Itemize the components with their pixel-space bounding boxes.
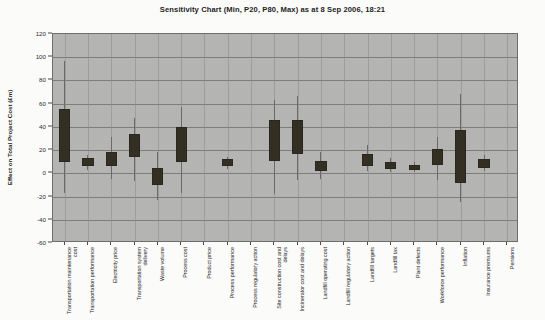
box-p20-p80 bbox=[385, 162, 396, 169]
data-point bbox=[53, 34, 76, 241]
x-tick-mark bbox=[134, 242, 135, 245]
x-tick-label: Pensions bbox=[509, 247, 515, 317]
data-point bbox=[146, 34, 169, 241]
box-p20-p80 bbox=[222, 159, 233, 166]
data-point bbox=[216, 34, 239, 241]
x-tick-mark bbox=[390, 242, 391, 245]
y-tick-label: -60 bbox=[37, 239, 46, 246]
data-point bbox=[472, 34, 495, 241]
x-tick-mark bbox=[506, 242, 507, 245]
x-tick-mark bbox=[180, 242, 181, 245]
box-p20-p80 bbox=[59, 109, 70, 161]
box-p20-p80 bbox=[176, 127, 187, 162]
data-point bbox=[379, 34, 402, 241]
x-tick-label: Landfill regulatory action bbox=[345, 247, 351, 317]
y-tick-label: 120 bbox=[36, 30, 46, 37]
x-axis: Transportation maintenance costTransport… bbox=[52, 242, 518, 320]
x-tick-label: Process performance bbox=[229, 247, 235, 317]
x-tick-label: Workforce performance bbox=[439, 247, 445, 317]
y-tick-label: 60 bbox=[39, 99, 46, 106]
data-point bbox=[170, 34, 193, 241]
box-p20-p80 bbox=[315, 161, 326, 171]
x-tick-mark bbox=[297, 242, 298, 245]
category-separator bbox=[507, 34, 508, 241]
box-p20-p80 bbox=[292, 120, 303, 154]
x-tick-label: Landfill targets bbox=[369, 247, 375, 317]
x-tick-label: Process cost bbox=[182, 247, 188, 317]
x-tick-label: Insurance premiums bbox=[485, 247, 491, 317]
data-point bbox=[449, 34, 472, 241]
x-tick-mark bbox=[483, 242, 484, 245]
data-point bbox=[100, 34, 123, 241]
y-axis: 120100806040200-20-40-60 bbox=[0, 33, 52, 242]
x-tick-label: Site construction cost and delays bbox=[276, 247, 288, 317]
x-tick-label: Electricity price bbox=[112, 247, 118, 317]
data-point bbox=[123, 34, 146, 241]
box-p20-p80 bbox=[478, 159, 489, 167]
category-separator bbox=[204, 34, 205, 241]
chart-page: Sensitivity Chart (Min, P20, P80, Max) a… bbox=[0, 0, 545, 320]
box-p20-p80 bbox=[106, 152, 117, 166]
y-tick-label: 40 bbox=[39, 122, 46, 129]
x-tick-label: Transportation performance bbox=[89, 247, 95, 317]
x-tick-mark bbox=[413, 242, 414, 245]
x-tick-label: Plant defects bbox=[415, 247, 421, 317]
x-tick-mark bbox=[203, 242, 204, 245]
x-tick-mark bbox=[250, 242, 251, 245]
category-separator bbox=[251, 34, 252, 241]
x-tick-label: Inflation bbox=[462, 247, 468, 317]
x-tick-mark bbox=[343, 242, 344, 245]
data-point bbox=[263, 34, 286, 241]
data-point bbox=[403, 34, 426, 241]
x-tick-mark bbox=[64, 242, 65, 245]
box-p20-p80 bbox=[152, 168, 163, 185]
box-p20-p80 bbox=[362, 154, 373, 167]
x-tick-label: Process regulatory action bbox=[252, 247, 258, 317]
x-tick-mark bbox=[87, 242, 88, 245]
data-point bbox=[309, 34, 332, 241]
y-tick-label: 100 bbox=[36, 53, 46, 60]
x-tick-mark bbox=[227, 242, 228, 245]
x-tick-label: Landfill operating cost bbox=[322, 247, 328, 317]
x-tick-label: Incinerator cost and delays bbox=[299, 247, 305, 317]
category-separator bbox=[344, 34, 345, 241]
data-point bbox=[426, 34, 449, 241]
x-tick-label: Waste volume bbox=[159, 247, 165, 317]
y-tick-label: -20 bbox=[37, 192, 46, 199]
x-tick-mark bbox=[110, 242, 111, 245]
box-p20-p80 bbox=[129, 134, 140, 157]
x-tick-label: Product price bbox=[206, 247, 212, 317]
box-p20-p80 bbox=[409, 165, 420, 170]
x-tick-label: Landfill tax bbox=[392, 247, 398, 317]
x-tick-mark bbox=[460, 242, 461, 245]
box-p20-p80 bbox=[432, 149, 443, 165]
y-tick-label: 0 bbox=[43, 169, 46, 176]
y-tick-label: -40 bbox=[37, 215, 46, 222]
x-tick-mark bbox=[157, 242, 158, 245]
x-tick-mark bbox=[273, 242, 274, 245]
box-p20-p80 bbox=[82, 158, 93, 166]
data-point bbox=[286, 34, 309, 241]
x-tick-label: Transportation maintenance cost bbox=[66, 247, 78, 317]
y-tick-label: 80 bbox=[39, 76, 46, 83]
y-tick-label: 20 bbox=[39, 146, 46, 153]
chart-title: Sensitivity Chart (Min, P20, P80, Max) a… bbox=[0, 5, 545, 14]
box-p20-p80 bbox=[455, 130, 466, 182]
box-p20-p80 bbox=[269, 120, 280, 161]
plot-area bbox=[52, 33, 518, 242]
data-point bbox=[76, 34, 99, 241]
x-tick-mark bbox=[436, 242, 437, 245]
data-point bbox=[356, 34, 379, 241]
x-tick-mark bbox=[367, 242, 368, 245]
x-tick-label: Transportation system delivery bbox=[136, 247, 148, 317]
x-tick-mark bbox=[320, 242, 321, 245]
